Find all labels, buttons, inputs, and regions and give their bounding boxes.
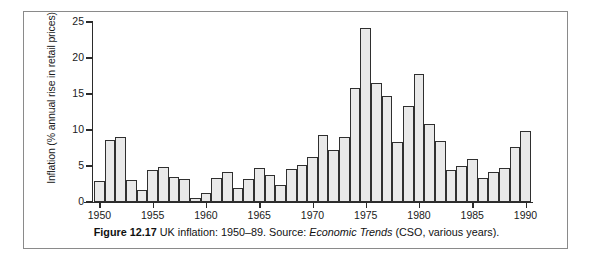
x-tick-1950: [99, 202, 100, 208]
bar-1965: [254, 168, 265, 202]
bar-1962: [222, 172, 233, 202]
x-tick-1975: [366, 202, 367, 208]
bar-1970: [307, 157, 318, 202]
caption-body: UK inflation: 1950–89. Source:: [157, 226, 309, 238]
bar-1968: [286, 169, 297, 202]
bar-1975: [360, 28, 371, 202]
bar-1963: [233, 188, 244, 202]
bar-1987: [488, 172, 499, 202]
x-tick-label-1955: 1955: [133, 210, 173, 221]
bar-1977: [382, 96, 393, 202]
y-tick-label-20: 20: [58, 52, 84, 63]
bar-chart: Inflation (% annual rise in retail price…: [24, 12, 569, 250]
x-tick-1990: [526, 202, 527, 208]
bar-1960: [201, 193, 212, 202]
bar-1988: [499, 168, 510, 202]
y-tick-label-5: 5: [58, 160, 84, 171]
bar-1985: [467, 159, 478, 202]
x-tick-label-1990: 1990: [506, 210, 546, 221]
bar-series: [92, 22, 533, 202]
bar-1957: [169, 177, 180, 202]
bar-1989: [510, 147, 521, 202]
x-tick-label-1970: 1970: [293, 210, 333, 221]
bar-1964: [243, 179, 254, 202]
y-tick-label-25: 25: [58, 16, 84, 27]
x-tick-1980: [419, 202, 420, 208]
bar-1954: [137, 190, 148, 202]
caption-tail: (CSO, various years).: [392, 226, 499, 238]
bar-1955: [147, 170, 158, 202]
x-axis-line: [84, 202, 533, 203]
bar-1984: [456, 166, 467, 202]
bar-1986: [478, 178, 489, 202]
bar-1980: [414, 74, 425, 202]
bar-1971: [318, 135, 329, 202]
x-tick-1985: [472, 202, 473, 208]
figure-frame: Inflation (% annual rise in retail price…: [23, 11, 568, 249]
bar-1959: [190, 198, 201, 202]
bar-1969: [297, 165, 308, 202]
bar-1981: [424, 124, 435, 202]
y-tick-label-15: 15: [58, 88, 84, 99]
x-tick-label-1960: 1960: [186, 210, 226, 221]
x-tick-label-1985: 1985: [452, 210, 492, 221]
x-tick-1955: [153, 202, 154, 208]
x-tick-label-1950: 1950: [79, 210, 119, 221]
bar-1956: [158, 167, 169, 202]
x-tick-1960: [206, 202, 207, 208]
bar-1973: [339, 137, 350, 202]
bar-1967: [275, 185, 286, 202]
bar-1958: [179, 179, 190, 202]
caption-source-title: Economic Trends: [309, 226, 392, 238]
figure-caption: Figure 12.17 UK inflation: 1950–89. Sour…: [24, 226, 569, 239]
bar-1979: [403, 106, 414, 202]
bar-1961: [211, 178, 222, 202]
y-axis-label: Inflation (% annual rise in retail price…: [45, 8, 57, 188]
y-tick-label-10: 10: [58, 124, 84, 135]
bar-1966: [265, 175, 276, 202]
bar-1952: [115, 137, 126, 202]
bar-1974: [350, 88, 361, 202]
bar-1983: [446, 170, 457, 202]
bar-1950: [94, 181, 105, 202]
x-tick-label-1965: 1965: [239, 210, 279, 221]
x-tick-label-1980: 1980: [399, 210, 439, 221]
bar-1972: [328, 150, 339, 202]
figure-number: Figure 12.17: [94, 226, 157, 238]
bar-1990: [520, 131, 531, 202]
x-tick-1965: [259, 202, 260, 208]
y-tick-label-0: 0: [58, 196, 84, 207]
bar-1976: [371, 83, 382, 202]
bar-1982: [435, 141, 446, 202]
bar-1953: [126, 180, 137, 202]
x-tick-1970: [313, 202, 314, 208]
bar-1951: [105, 140, 116, 202]
x-tick-label-1975: 1975: [346, 210, 386, 221]
bar-1978: [392, 142, 403, 202]
